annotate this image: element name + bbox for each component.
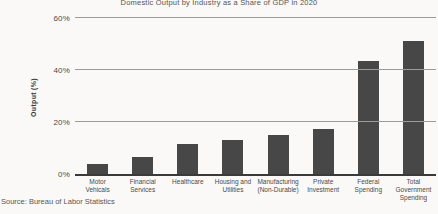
bars-row bbox=[75, 18, 436, 174]
chart-title: Domestic Output by Industry as a Share o… bbox=[0, 0, 438, 7]
bar bbox=[177, 144, 198, 174]
bar-slot bbox=[75, 18, 120, 174]
x-axis-label: Total Government Spending bbox=[391, 178, 436, 202]
bar bbox=[358, 61, 379, 174]
bar bbox=[313, 129, 334, 175]
y-axis-ticks: 60%40%20%0% bbox=[40, 18, 70, 174]
y-tick-20%: 20% bbox=[53, 118, 70, 127]
y-axis-title: Output (%) bbox=[30, 20, 37, 176]
source-note: Source: Bureau of Labor Statistics bbox=[1, 197, 115, 206]
bar bbox=[222, 140, 243, 174]
chart-page: Domestic Output by Industry as a Share o… bbox=[0, 0, 438, 214]
x-axis-labels: Motor VehicalsFinancial ServicesHealthca… bbox=[75, 178, 436, 202]
bar-slot bbox=[165, 18, 210, 174]
gridline-40% bbox=[75, 69, 436, 70]
x-axis-label: Private Investment bbox=[301, 178, 346, 202]
gridline-60% bbox=[75, 17, 436, 18]
x-axis-label: Healthcare bbox=[165, 178, 210, 202]
x-axis-label: Housing and Utilities bbox=[210, 178, 255, 202]
x-axis-label: Federal Spending bbox=[346, 178, 391, 202]
y-tick-60%: 60% bbox=[53, 14, 70, 23]
plot-area bbox=[75, 18, 436, 176]
bar-slot bbox=[301, 18, 346, 174]
x-axis-label: Financial Services bbox=[120, 178, 165, 202]
y-tick-0%: 0% bbox=[58, 170, 70, 179]
bar bbox=[403, 41, 424, 174]
bar bbox=[87, 164, 108, 174]
bar-slot bbox=[256, 18, 301, 174]
bar-slot bbox=[391, 18, 436, 174]
gridline-20% bbox=[75, 121, 436, 122]
bar bbox=[132, 157, 153, 174]
bar-slot bbox=[120, 18, 165, 174]
y-tick-40%: 40% bbox=[53, 66, 70, 75]
bar-slot bbox=[210, 18, 255, 174]
bar bbox=[268, 135, 289, 174]
bar-slot bbox=[346, 18, 391, 174]
x-axis-label: Manufacturing (Non-Durable) bbox=[256, 178, 301, 202]
